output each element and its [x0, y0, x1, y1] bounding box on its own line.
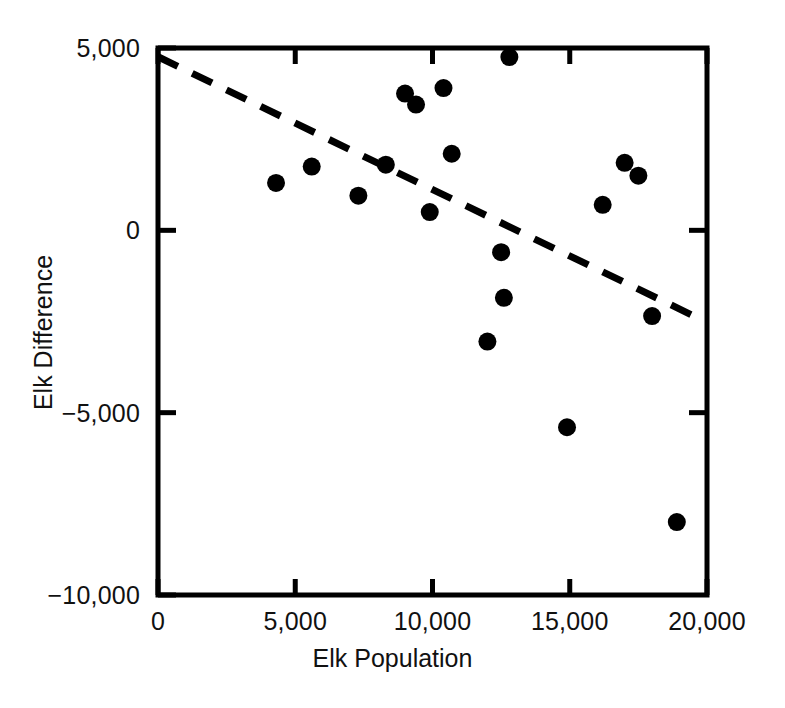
- trendline: [158, 57, 702, 320]
- data-point: [500, 48, 518, 66]
- trendline-path: [158, 57, 702, 320]
- x-tick-label-3: 15,000: [531, 607, 609, 636]
- y-tick-label-0: 5,000: [0, 34, 140, 63]
- data-point: [434, 79, 452, 97]
- data-point: [643, 307, 661, 325]
- x-tick-label-1: 5,000: [263, 607, 327, 636]
- x-tick-label-4: 20,000: [668, 607, 746, 636]
- x-tick-label-2: 10,000: [394, 607, 472, 636]
- data-point: [443, 145, 461, 163]
- data-point: [616, 154, 634, 172]
- data-point: [349, 187, 367, 205]
- data-point: [594, 196, 612, 214]
- data-point: [407, 96, 425, 114]
- plot-border: [158, 48, 707, 595]
- x-tick-label-0: 0: [151, 607, 165, 636]
- data-point: [558, 418, 576, 436]
- data-point: [495, 289, 513, 307]
- axes-frame: [158, 48, 707, 595]
- x-axis-title: Elk Population: [0, 644, 785, 673]
- data-point: [668, 513, 686, 531]
- data-point: [478, 333, 496, 351]
- data-point: [421, 203, 439, 221]
- y-axis-ticks: [158, 48, 707, 595]
- data-point: [629, 167, 647, 185]
- y-tick-label-3: −10,000: [0, 581, 140, 610]
- chart-figure: 5,0000−5,000−10,000 05,00010,00015,00020…: [0, 0, 785, 708]
- data-point: [303, 158, 321, 176]
- data-points: [267, 48, 686, 531]
- x-axis-ticks: [158, 48, 707, 595]
- data-point: [267, 174, 285, 192]
- y-tick-label-1: 0: [0, 216, 140, 245]
- data-point: [492, 243, 510, 261]
- data-point: [377, 156, 395, 174]
- y-tick-label-2: −5,000: [0, 398, 140, 427]
- y-axis-title: Elk Difference: [29, 183, 58, 483]
